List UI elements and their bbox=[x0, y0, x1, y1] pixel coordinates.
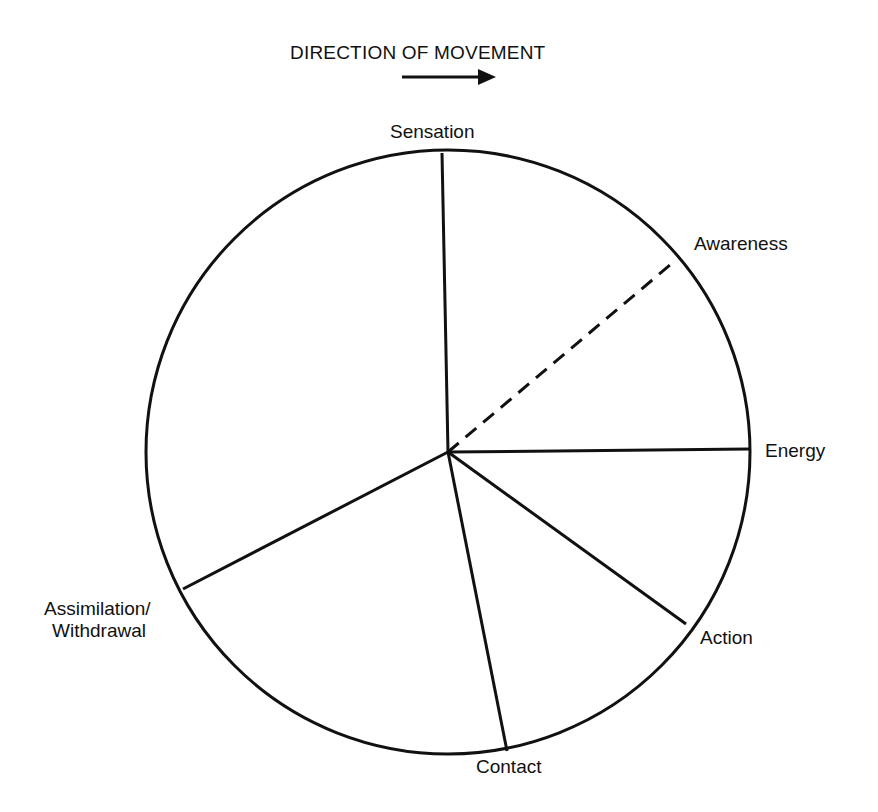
right-arrow-icon bbox=[402, 69, 496, 85]
spoke-contact bbox=[448, 452, 507, 751]
spoke-sensation bbox=[442, 153, 448, 452]
label-energy: Energy bbox=[765, 440, 825, 462]
label-sensation: Sensation bbox=[390, 121, 475, 143]
label-action: Action bbox=[700, 627, 753, 649]
spoke-action bbox=[448, 452, 686, 624]
spoke-energy bbox=[448, 449, 749, 452]
spoke-assimilation bbox=[183, 452, 448, 589]
label-contact: Contact bbox=[476, 756, 541, 778]
spoke-awareness-dashed bbox=[448, 260, 676, 452]
label-awareness: Awareness bbox=[694, 233, 788, 255]
label-assimilation-line2: Withdrawal bbox=[44, 620, 151, 642]
label-assimilation: Assimilation/ Withdrawal bbox=[44, 598, 151, 642]
label-assimilation-line1: Assimilation/ bbox=[44, 598, 151, 620]
